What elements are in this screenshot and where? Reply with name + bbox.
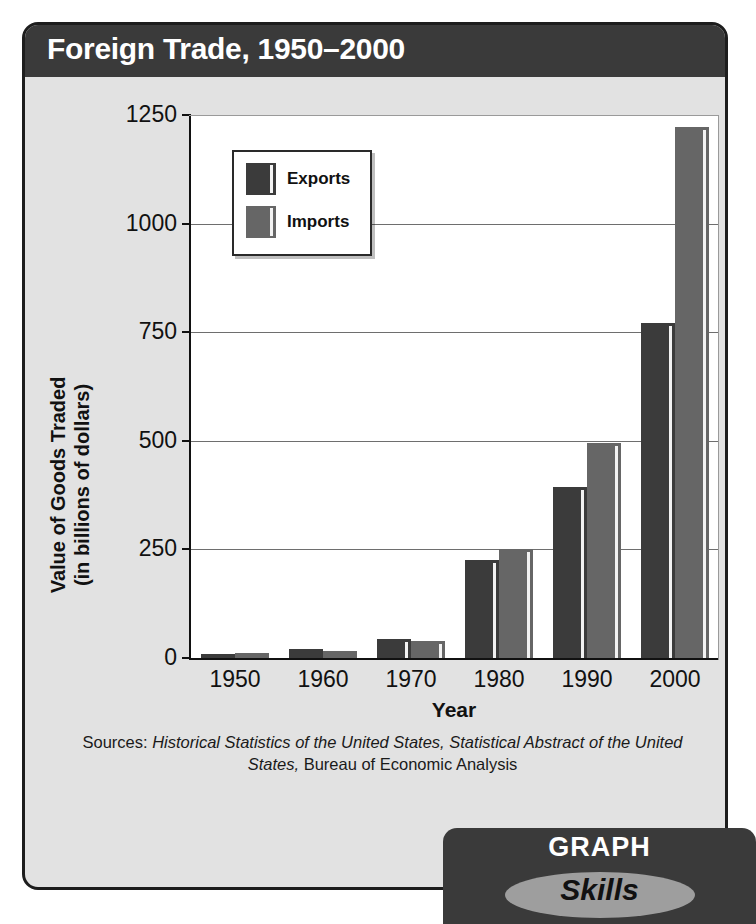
legend-item-imports: Imports — [246, 206, 370, 238]
x-tick-label: 1950 — [209, 666, 260, 693]
bar-imports-1970 — [411, 641, 445, 658]
y-axis-title: Value of Goods Traded (in billions of do… — [46, 320, 94, 650]
chart-region: Value of Goods Traded (in billions of do… — [25, 77, 725, 890]
y-tick-mark — [182, 657, 191, 659]
bar-group — [631, 127, 719, 658]
y-tick-mark — [182, 114, 191, 116]
page-title: Foreign Trade, 1950–2000 — [47, 32, 405, 66]
source-prefix: Sources: — [82, 733, 152, 751]
gridline — [191, 115, 719, 116]
card-title-bar: Foreign Trade, 1950–2000 — [25, 25, 725, 77]
bar-imports-1950 — [235, 653, 269, 658]
bar-exports-2000 — [641, 323, 675, 658]
bar-imports-1980 — [499, 549, 533, 658]
bar-group — [543, 443, 631, 658]
y-axis-title-line1: Value of Goods Traded — [46, 320, 70, 650]
bar-group — [455, 549, 543, 658]
y-tick-label: 250 — [139, 535, 177, 562]
legend-swatch-exports — [246, 163, 276, 195]
x-tick-label: 1980 — [473, 666, 524, 693]
graph-skills-card: Foreign Trade, 1950–2000 Value of Goods … — [22, 22, 728, 890]
bar-exports-1980 — [465, 560, 499, 658]
legend-label-exports: Exports — [287, 169, 350, 189]
y-tick-mark — [182, 331, 191, 333]
x-axis-title: Year — [189, 698, 719, 722]
bar-imports-1990 — [587, 443, 621, 658]
y-tick-label: 1250 — [126, 101, 177, 128]
x-tick-label: 1990 — [561, 666, 612, 693]
bar-exports-1960 — [289, 649, 323, 658]
x-tick-label: 1970 — [385, 666, 436, 693]
badge-label-skills: Skills — [443, 873, 756, 907]
bar-imports-1960 — [323, 651, 357, 658]
y-axis-title-line2: (in billions of dollars) — [70, 320, 94, 650]
x-tick-label: 1960 — [297, 666, 348, 693]
y-tick-label: 0 — [164, 644, 177, 671]
x-tick-label: 2000 — [649, 666, 700, 693]
y-tick-label: 750 — [139, 318, 177, 345]
source-note: Sources: Historical Statistics of the Un… — [70, 731, 695, 776]
y-tick-mark — [182, 548, 191, 550]
chart-legend: Exports Imports — [232, 150, 372, 256]
source-suffix: Bureau of Economic Analysis — [299, 755, 517, 773]
y-tick-label: 1000 — [126, 210, 177, 237]
legend-item-exports: Exports — [246, 163, 370, 195]
bar-exports-1990 — [553, 487, 587, 658]
y-tick-mark — [182, 440, 191, 442]
bar-imports-2000 — [675, 127, 709, 658]
badge-label-graph: GRAPH — [443, 832, 756, 863]
legend-swatch-imports — [246, 206, 276, 238]
legend-label-imports: Imports — [287, 212, 349, 232]
bar-group — [279, 649, 367, 658]
bar-exports-1950 — [201, 654, 235, 658]
bar-exports-1970 — [377, 639, 411, 658]
bar-group — [367, 639, 455, 658]
bar-group — [191, 653, 279, 658]
graph-skills-badge: GRAPH Skills — [443, 828, 756, 924]
y-tick-mark — [182, 223, 191, 225]
y-tick-label: 500 — [139, 427, 177, 454]
